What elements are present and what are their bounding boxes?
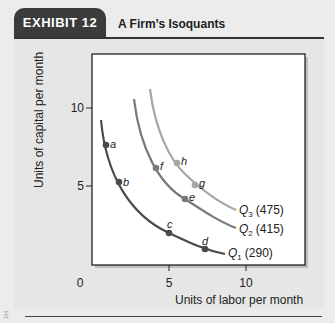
label-q2: Q2(415) (239, 222, 284, 238)
x-tick-label-10: 10 (239, 276, 253, 290)
point-h (174, 160, 181, 167)
origin-label: 0 (77, 276, 84, 290)
point-g (192, 182, 199, 189)
label-q1: Q1(290) (228, 246, 273, 262)
page-number: 114 (3, 311, 9, 319)
y-tick-label-5: 5 (77, 179, 84, 193)
point-e (182, 196, 189, 203)
point-label-h: h (181, 155, 187, 167)
x-axis-label: Units of labor per month (175, 293, 303, 307)
y-axis-label: Units of capital per month (32, 52, 46, 188)
point-label-e: e (189, 191, 195, 203)
label-q3: Q3(475) (239, 203, 284, 219)
point-f (153, 165, 160, 172)
point-label-c: c (167, 218, 173, 230)
point-c (166, 230, 173, 237)
point-label-g: g (199, 177, 206, 189)
x-tick-label-5: 5 (166, 276, 173, 290)
y-tick-label-10: 10 (71, 101, 85, 115)
point-label-b: b (123, 176, 129, 188)
point-b (116, 179, 123, 186)
isoquant-chart: 10 5 0 5 10 a b c d f e h g Q3(475) Q2(4… (0, 0, 335, 323)
bottom-rule (25, 316, 322, 317)
point-label-a: a (110, 138, 116, 150)
point-a (103, 142, 110, 149)
point-label-d: d (202, 235, 209, 247)
